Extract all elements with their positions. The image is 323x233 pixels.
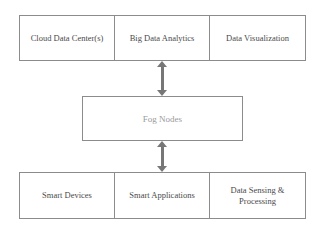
cloud-tier-cell-label: Data Visualization	[226, 33, 289, 44]
cloud-tier-cell-label: Cloud Data Center(s)	[31, 33, 104, 44]
fog-tier-label: Fog Nodes	[143, 114, 182, 124]
edge-tier-box: Smart Devices Smart Applications Data Se…	[19, 172, 306, 219]
connector-fog-edge-bidirectional-arrow-icon	[157, 141, 168, 172]
fog-architecture-diagram: Cloud Data Center(s) Big Data Analytics …	[0, 0, 323, 233]
arrow-shaft	[161, 66, 164, 91]
fog-tier-box: Fog Nodes	[82, 96, 243, 141]
edge-tier-cell-label: Data Sensing & Processing	[213, 185, 302, 206]
cloud-tier-cell-cloud-data-centers: Cloud Data Center(s)	[20, 16, 115, 60]
edge-tier-cell-label: Smart Devices	[42, 190, 92, 201]
cloud-tier-box: Cloud Data Center(s) Big Data Analytics …	[19, 15, 306, 61]
arrow-shaft	[161, 146, 164, 167]
cloud-tier-cell-big-data-analytics: Big Data Analytics	[115, 16, 210, 60]
edge-tier-cell-data-sensing-processing: Data Sensing & Processing	[210, 173, 305, 218]
edge-tier-cell-smart-applications: Smart Applications	[115, 173, 210, 218]
edge-tier-cell-smart-devices: Smart Devices	[20, 173, 115, 218]
connector-cloud-fog-bidirectional-arrow-icon	[157, 61, 168, 96]
cloud-tier-cell-data-visualization: Data Visualization	[210, 16, 305, 60]
edge-tier-cell-label: Smart Applications	[129, 190, 194, 201]
cloud-tier-cell-label: Big Data Analytics	[130, 33, 195, 44]
